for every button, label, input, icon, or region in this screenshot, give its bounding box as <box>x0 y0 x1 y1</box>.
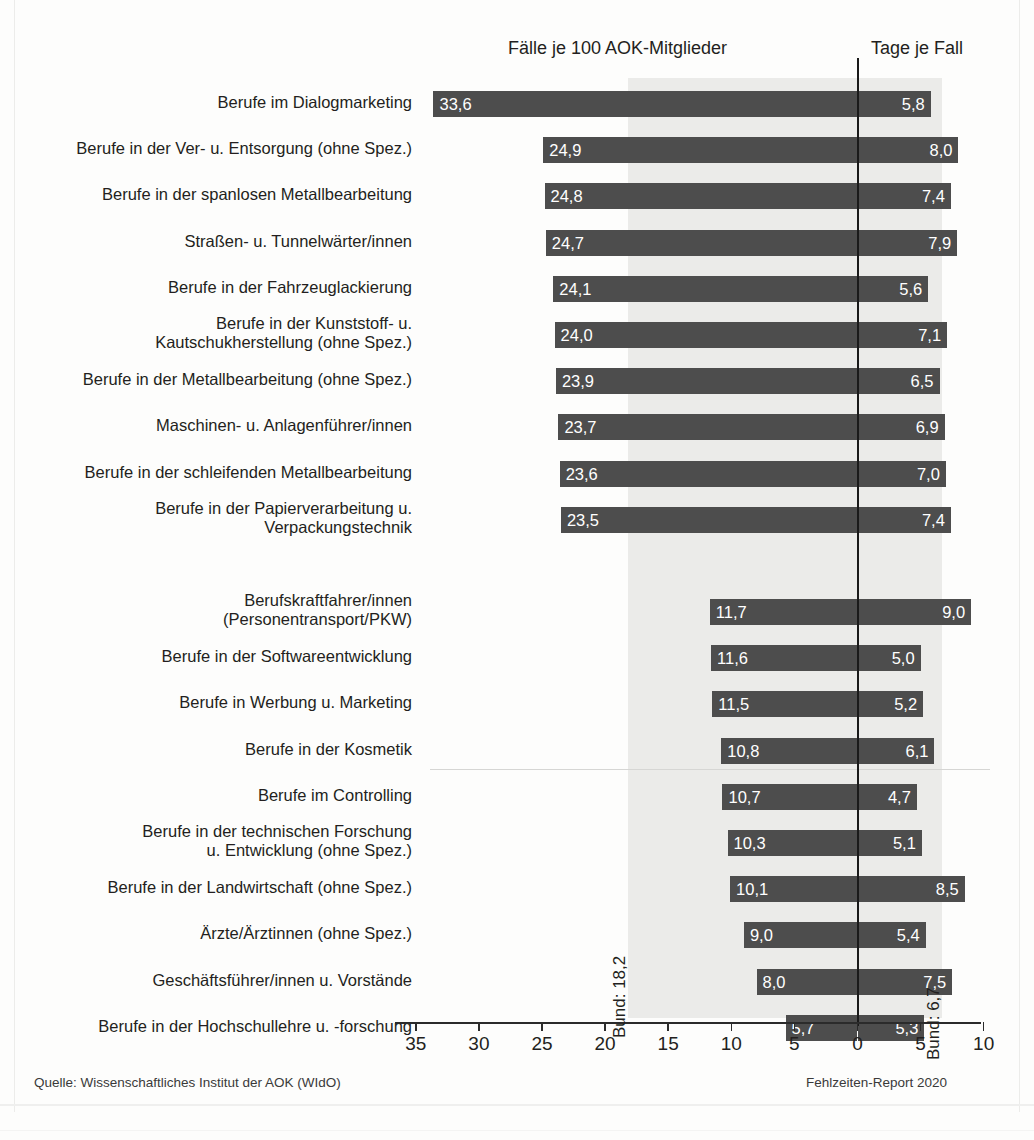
bar-left-value: 23,5 <box>561 507 599 533</box>
bar-right-value: 4,7 <box>888 784 917 810</box>
axis-tick-label: 25 <box>531 1033 552 1055</box>
row-label: Berufe im Dialogmarketing <box>0 93 412 112</box>
row-label: Berufskraftfahrer/innen(Personentranspor… <box>0 591 412 629</box>
row-label-line: Berufe in der technischen Forschung <box>0 822 412 841</box>
bar-right-value: 5,6 <box>899 276 928 302</box>
row-label-line: Berufe in der Kunststoff- u. <box>0 314 412 333</box>
bar-right-value: 8,5 <box>936 876 965 902</box>
row-label: Berufe in der Ver- u. Entsorgung (ohne S… <box>0 139 412 158</box>
row-label-line: u. Entwicklung (ohne Spez.) <box>0 841 412 860</box>
report-note: Fehlzeiten-Report 2020 <box>806 1075 947 1090</box>
bar-left-value: 24,9 <box>543 137 581 163</box>
bar-left-value: 24,8 <box>545 183 583 209</box>
source-note: Quelle: Wissenschaftliches Institut der … <box>34 1075 341 1090</box>
bar-right-value: 5,4 <box>897 922 926 948</box>
bar-right-days: 5,6 <box>858 276 929 302</box>
row-label-line: Geschäftsführer/innen u. Vorstände <box>0 971 412 990</box>
bar-left-cases: 23,9 <box>556 368 858 394</box>
bar-right-value: 8,0 <box>930 137 959 163</box>
row-label: Berufe in der Softwareentwicklung <box>0 647 412 666</box>
bar-right-value: 5,0 <box>892 645 921 671</box>
bar-right-days: 8,5 <box>858 876 965 902</box>
bar-right-days: 5,4 <box>858 922 926 948</box>
bar-left-value: 11,5 <box>712 691 749 717</box>
row-label: Berufe in der Papierverarbeitung u.Verpa… <box>0 499 412 537</box>
row-label-line: Berufe in der spanlosen Metallbearbeitun… <box>0 185 412 204</box>
axis-tick <box>415 1022 417 1031</box>
bar-left-cases: 24,1 <box>553 276 857 302</box>
chart-row: Berufe in der spanlosen Metallbearbeitun… <box>0 174 1034 212</box>
chart-row: Berufe in der Papierverarbeitung u.Verpa… <box>0 498 1034 536</box>
row-label-line: Berufe in der Papierverarbeitung u. <box>0 499 412 518</box>
row-label-line: Berufe in der Fahrzeuglackierung <box>0 278 412 297</box>
bar-right-days: 6,9 <box>858 414 945 440</box>
row-label-line: Berufe im Dialogmarketing <box>0 93 412 112</box>
bund-right-label: Bund: 6,7 <box>924 987 944 1060</box>
row-label-line: (Personentransport/PKW) <box>0 610 412 629</box>
row-label: Berufe in der technischen Forschungu. En… <box>0 822 412 860</box>
bar-left-cases: 10,3 <box>728 830 858 856</box>
chart-row: Berufe im Dialogmarketing33,65,8 <box>0 82 1034 120</box>
row-label: Ärzte/Ärztinnen (ohne Spez.) <box>0 924 412 943</box>
bar-right-value: 5,2 <box>894 691 923 717</box>
bar-right-value: 5,1 <box>893 830 922 856</box>
bar-right-days: 6,1 <box>858 738 935 764</box>
bar-right-days: 7,4 <box>858 507 951 533</box>
bar-left-value: 9,0 <box>744 922 773 948</box>
row-label-line: Berufe in der Metallbearbeitung (ohne Sp… <box>0 370 412 389</box>
axis-tick <box>541 1022 543 1031</box>
row-label: Berufe in der Kosmetik <box>0 740 412 759</box>
bar-left-value: 10,8 <box>721 738 759 764</box>
chart-row: Berufe im Controlling10,74,7 <box>0 775 1034 813</box>
plot-area: Berufe im Dialogmarketing33,65,8Berufe i… <box>0 78 1034 1018</box>
row-label: Berufe in der spanlosen Metallbearbeitun… <box>0 185 412 204</box>
chart-row: Berufe in Werbung u. Marketing11,55,2 <box>0 682 1034 720</box>
bar-left-value: 10,3 <box>728 830 766 856</box>
bar-right-days: 7,9 <box>858 230 958 256</box>
row-label-line: Berufe in der Landwirtschaft (ohne Spez.… <box>0 878 412 897</box>
bar-right-value: 6,1 <box>906 738 935 764</box>
axis-tick <box>731 1022 733 1031</box>
bar-left-cases: 11,6 <box>711 645 857 671</box>
bar-right-days: 5,2 <box>858 691 924 717</box>
chart-row: Berufe in der Kosmetik10,86,1 <box>0 729 1034 767</box>
row-label: Berufe in der schleifenden Metallbearbei… <box>0 463 412 482</box>
bar-right-days: 7,1 <box>858 322 948 348</box>
row-separator <box>430 769 990 770</box>
chart-row: Berufskraftfahrer/innen(Personentranspor… <box>0 590 1034 628</box>
bar-left-value: 8,0 <box>757 969 786 995</box>
bar-left-cases: 11,7 <box>710 599 858 625</box>
bar-left-value: 23,7 <box>558 414 596 440</box>
row-label-line: Kautschukherstellung (ohne Spez.) <box>0 333 412 352</box>
chart-row: Geschäftsführer/innen u. Vorstände8,07,5 <box>0 960 1034 998</box>
chart-row: Berufe in der technischen Forschungu. En… <box>0 821 1034 859</box>
row-label-line: Verpackungstechnik <box>0 518 412 537</box>
row-label-line: Berufe in der Kosmetik <box>0 740 412 759</box>
row-label-line: Straßen- u. Tunnelwärter/innen <box>0 232 412 251</box>
row-label: Berufe in der Metallbearbeitung (ohne Sp… <box>0 370 412 389</box>
bar-right-value: 7,0 <box>917 461 946 487</box>
axis-tick <box>667 1022 669 1031</box>
bar-left-cases: 24,8 <box>545 183 858 209</box>
row-label: Berufe im Controlling <box>0 786 412 805</box>
axis-tick-label: 30 <box>468 1033 489 1055</box>
chart-row: Berufe in der Kunststoff- u.Kautschukher… <box>0 313 1034 351</box>
axis-tick <box>794 1022 796 1031</box>
bar-left-value: 24,7 <box>546 230 584 256</box>
bar-right-value: 7,4 <box>922 183 951 209</box>
bar-left-cases: 9,0 <box>744 922 858 948</box>
bar-left-cases: 24,0 <box>555 322 858 348</box>
axis-tick-label: 10 <box>721 1033 742 1055</box>
chart-row: Berufe in der Metallbearbeitung (ohne Sp… <box>0 359 1034 397</box>
axis-tick-label: 5 <box>789 1033 800 1055</box>
chart-row: Berufe in der schleifenden Metallbearbei… <box>0 452 1034 490</box>
bar-left-cases: 23,5 <box>561 507 858 533</box>
row-label-line: Berufe in Werbung u. Marketing <box>0 693 412 712</box>
chart-row: Maschinen- u. Anlagenführer/innen23,76,9 <box>0 405 1034 443</box>
row-label: Maschinen- u. Anlagenführer/innen <box>0 416 412 435</box>
bar-left-cases: 23,6 <box>560 461 858 487</box>
row-label-line: Maschinen- u. Anlagenführer/innen <box>0 416 412 435</box>
diverging-bar-chart: Fälle je 100 AOK-Mitglieder Tage je Fall… <box>0 0 1034 1140</box>
row-label-line: Berufskraftfahrer/innen <box>0 591 412 610</box>
axis-tick <box>478 1022 480 1031</box>
